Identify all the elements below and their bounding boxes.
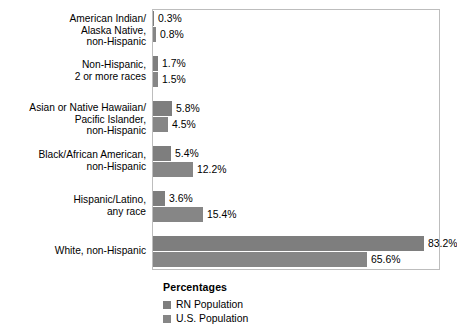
legend-title: Percentages bbox=[163, 281, 363, 293]
bar-value-us: 0.8% bbox=[160, 29, 184, 40]
bar-group-us: 0.8% bbox=[153, 27, 184, 42]
bar-group-rn: 3.6% bbox=[153, 191, 193, 206]
chart-legend: Percentages RN Population U.S. Populatio… bbox=[163, 281, 363, 325]
bar-rn bbox=[153, 56, 158, 71]
legend-swatch-icon bbox=[163, 301, 171, 309]
bar-group-us: 12.2% bbox=[153, 162, 226, 177]
bar-rn bbox=[153, 191, 165, 206]
bar-value-us: 15.4% bbox=[207, 209, 236, 220]
bar-group-us: 65.6% bbox=[153, 252, 400, 267]
row-bars: 5.8% 4.5% bbox=[153, 99, 449, 142]
chart-row: Hispanic/Latino, any race 3.6% 15.4% bbox=[0, 189, 449, 232]
chart-row: Black/African American, non-Hispanic 5.4… bbox=[0, 144, 449, 187]
bar-value-rn: 1.7% bbox=[162, 58, 186, 69]
legend-swatch-icon bbox=[163, 315, 171, 323]
bar-group-us: 1.5% bbox=[153, 72, 186, 87]
chart-row: American Indian/ Alaska Native, non-Hisp… bbox=[0, 9, 449, 52]
bar-group-rn: 5.8% bbox=[153, 101, 200, 116]
bar-group-us: 15.4% bbox=[153, 207, 236, 222]
legend-item-label: U.S. Population bbox=[176, 313, 248, 325]
bar-us bbox=[153, 117, 168, 132]
bar-value-us: 65.6% bbox=[371, 254, 400, 265]
bar-value-us: 12.2% bbox=[197, 164, 226, 175]
category-label: White, non-Hispanic bbox=[0, 245, 146, 257]
category-label: Non-Hispanic, 2 or more races bbox=[0, 59, 146, 82]
row-bars: 3.6% 15.4% bbox=[153, 189, 449, 232]
bar-value-rn: 5.4% bbox=[175, 148, 199, 159]
legend-item-label: RN Population bbox=[176, 299, 243, 311]
bar-value-rn: 3.6% bbox=[169, 193, 193, 204]
category-label: Hispanic/Latino, any race bbox=[0, 194, 146, 217]
bar-us bbox=[153, 252, 367, 267]
chart-row: White, non-Hispanic 83.2% 65.6% bbox=[0, 234, 449, 277]
row-bars: 5.4% 12.2% bbox=[153, 144, 449, 187]
bar-us bbox=[153, 27, 156, 42]
row-bars: 0.3% 0.8% bbox=[153, 9, 449, 52]
row-bars: 1.7% 1.5% bbox=[153, 54, 449, 97]
bar-value-us: 1.5% bbox=[162, 74, 186, 85]
bar-value-rn: 5.8% bbox=[176, 103, 200, 114]
bar-us bbox=[153, 207, 203, 222]
bar-group-rn: 1.7% bbox=[153, 56, 186, 71]
bar-us bbox=[153, 162, 193, 177]
bar-group-rn: 0.3% bbox=[153, 11, 182, 26]
legend-item-rn-population[interactable]: RN Population bbox=[163, 299, 363, 311]
bar-value-rn: 83.2% bbox=[428, 238, 457, 249]
bar-value-rn: 0.3% bbox=[158, 13, 182, 24]
bar-rn bbox=[153, 11, 154, 26]
chart-row: Non-Hispanic, 2 or more races 1.7% 1.5% bbox=[0, 54, 449, 97]
bar-group-rn: 5.4% bbox=[153, 146, 199, 161]
legend-item-us-population[interactable]: U.S. Population bbox=[163, 313, 363, 325]
bar-rn bbox=[153, 146, 171, 161]
bar-us bbox=[153, 72, 158, 87]
bar-group-rn: 83.2% bbox=[153, 236, 457, 251]
chart-row: Asian or Native Hawaiian/ Pacific Island… bbox=[0, 99, 449, 142]
category-label: Black/African American, non-Hispanic bbox=[0, 149, 146, 172]
bar-rn bbox=[153, 236, 424, 251]
bar-value-us: 4.5% bbox=[172, 119, 196, 130]
bar-group-us: 4.5% bbox=[153, 117, 196, 132]
row-bars: 83.2% 65.6% bbox=[153, 234, 449, 277]
category-label: American Indian/ Alaska Native, non-Hisp… bbox=[0, 13, 146, 48]
category-label: Asian or Native Hawaiian/ Pacific Island… bbox=[0, 102, 146, 137]
bar-rn bbox=[153, 101, 172, 116]
